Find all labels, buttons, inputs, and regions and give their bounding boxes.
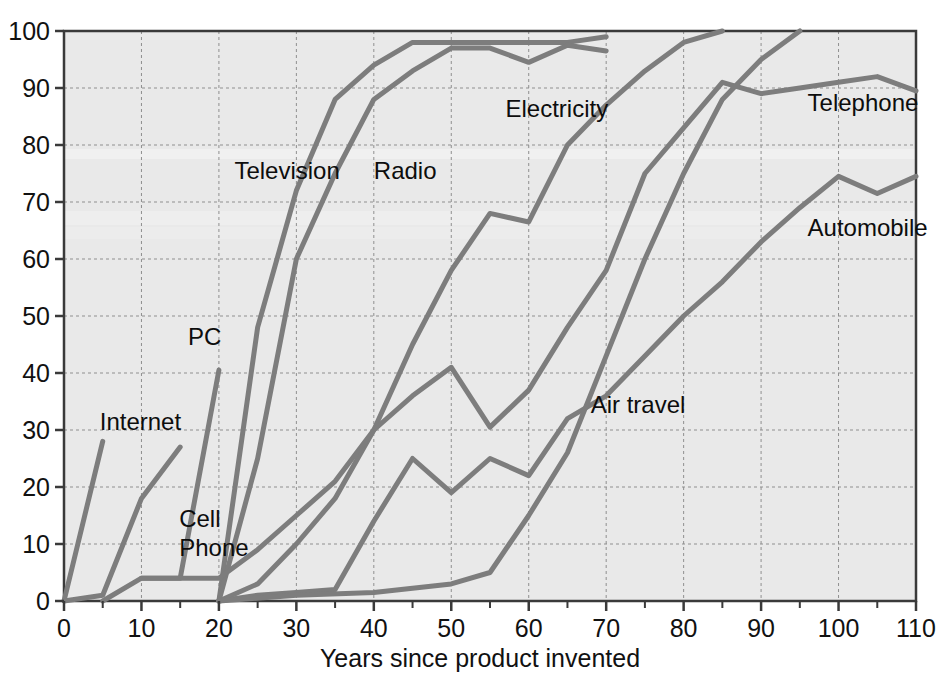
series-label-electricity: Electricity — [505, 95, 608, 122]
y-tick-label: 80 — [22, 131, 50, 159]
series-label-telephone: Telephone — [808, 89, 919, 116]
x-tick-label: 60 — [515, 614, 543, 642]
x-axis-title: Years since product invented — [320, 644, 640, 672]
x-tick-label: 30 — [282, 614, 310, 642]
series-label-automobile: Automobile — [808, 214, 928, 241]
x-tick-label: 20 — [205, 614, 233, 642]
y-tick-label: 0 — [36, 587, 50, 615]
chart-container: 0102030405060708090100010203040506070809… — [0, 0, 948, 681]
y-tick-label: 100 — [8, 17, 50, 45]
y-tick-label: 40 — [22, 359, 50, 387]
y-tick-label: 50 — [22, 302, 50, 330]
series-label-air-travel: Air travel — [591, 391, 686, 418]
series-label-radio: Radio — [374, 157, 437, 184]
x-tick-label: 80 — [670, 614, 698, 642]
series-label-television: Television — [234, 157, 339, 184]
y-tick-label: 60 — [22, 245, 50, 273]
y-tick-label: 70 — [22, 188, 50, 216]
x-tick-label: 70 — [592, 614, 620, 642]
y-tick-label: 10 — [22, 530, 50, 558]
series-label-internet: Internet — [100, 408, 182, 435]
x-tick-label: 90 — [747, 614, 775, 642]
x-tick-label: 110 — [896, 614, 936, 642]
series-label-pc: PC — [188, 323, 221, 350]
y-tick-label: 30 — [22, 416, 50, 444]
scan-band — [64, 149, 916, 159]
scan-band — [64, 227, 916, 239]
x-tick-label: 10 — [128, 614, 156, 642]
x-tick-label: 100 — [818, 614, 860, 642]
line-chart: 0102030405060708090100010203040506070809… — [0, 0, 948, 681]
x-tick-label: 40 — [360, 614, 388, 642]
x-tick-label: 50 — [437, 614, 465, 642]
y-tick-label: 90 — [22, 74, 50, 102]
y-tick-label: 20 — [22, 473, 50, 501]
x-tick-label: 0 — [57, 614, 71, 642]
